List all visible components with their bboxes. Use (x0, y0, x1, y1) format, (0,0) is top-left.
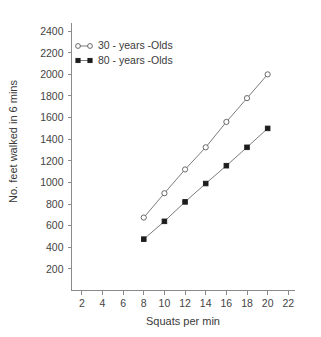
legend-entry: 30 - years -Olds (76, 39, 173, 51)
legend-marker-filled-square-icon (76, 58, 80, 62)
x-tick-label: 12 (179, 297, 191, 309)
series-2 (141, 126, 269, 241)
y-tick-label: 1600 (40, 111, 64, 123)
legend-marker-open-circle-icon (88, 44, 93, 49)
legend: 30 - years -Olds80 - years -Olds (76, 39, 173, 66)
x-tick-label: 22 (282, 297, 294, 309)
y-tick-label: 2000 (40, 68, 64, 80)
data-point (245, 145, 250, 150)
x-tick-label: 8 (141, 297, 147, 309)
data-point (265, 126, 270, 131)
x-tick-label: 4 (100, 297, 106, 309)
x-tick-label: 16 (221, 297, 233, 309)
y-axis-title: No. feet walked in 6 mins (7, 80, 19, 203)
data-point (203, 145, 208, 150)
data-point (141, 237, 146, 242)
chart-figure: 2004006008001000120014001600180020002200… (0, 0, 321, 337)
x-tick-label: 20 (262, 297, 274, 309)
x-axis-title: Squats per min (146, 315, 220, 327)
data-point (162, 219, 167, 224)
series-1 (141, 72, 270, 220)
line-chart-canvas: 2004006008001000120014001600180020002200… (0, 0, 321, 337)
data-point (162, 191, 167, 196)
y-tick-label: 2400 (40, 25, 64, 37)
legend-entry: 80 - years -Olds (76, 54, 173, 66)
y-tick-label: 1200 (40, 155, 64, 167)
legend-label: 30 - years -Olds (98, 39, 173, 51)
data-point (182, 167, 187, 172)
y-tick-label: 2200 (40, 47, 64, 59)
data-point (183, 200, 188, 205)
x-tick-label: 10 (159, 297, 171, 309)
legend-label: 80 - years -Olds (98, 54, 173, 66)
x-tick-label: 14 (200, 297, 212, 309)
y-tick-label: 200 (46, 263, 64, 275)
data-point (244, 96, 249, 101)
y-tick-label: 1800 (40, 90, 64, 102)
data-point (224, 163, 229, 168)
x-tick-label: 18 (241, 297, 253, 309)
x-tick-label: 2 (79, 297, 85, 309)
y-tick-label: 400 (46, 241, 64, 253)
y-tick-label: 600 (46, 219, 64, 231)
data-point (224, 119, 229, 124)
legend-marker-filled-square-icon (88, 58, 92, 62)
y-tick-label: 1400 (40, 133, 64, 145)
x-tick-label: 6 (120, 297, 126, 309)
legend-marker-open-circle-icon (76, 44, 81, 49)
data-point (265, 72, 270, 77)
data-point (203, 181, 208, 186)
y-axis: 2004006008001000120014001600180020002200… (40, 25, 71, 275)
y-tick-label: 1000 (40, 176, 64, 188)
y-tick-label: 800 (46, 198, 64, 210)
data-point (141, 215, 146, 220)
x-axis: 246810121416182022 (79, 291, 294, 309)
